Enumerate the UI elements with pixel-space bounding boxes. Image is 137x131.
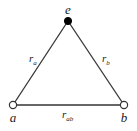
node-e (64, 17, 71, 24)
edge-label-rab: rab (62, 108, 74, 123)
edge-a-e (13, 21, 68, 105)
edge-label-rb: rb (102, 52, 110, 67)
edge-label-ra: ra (29, 52, 37, 67)
triangle-diagram: e a b ra rb rab (0, 0, 137, 131)
node-b (120, 101, 127, 108)
node-label-b: b (121, 110, 128, 125)
node-label-a: a (10, 110, 17, 125)
node-label-e: e (65, 2, 71, 17)
node-a (9, 101, 16, 108)
edge-e-b (68, 21, 124, 105)
